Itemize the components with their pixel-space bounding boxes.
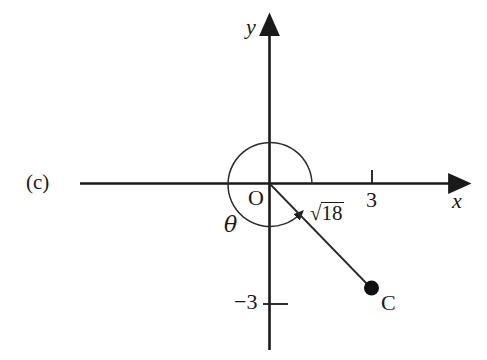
origin-label: O (248, 187, 264, 209)
angle-label-theta: θ (224, 214, 237, 236)
radicand: 18 (321, 202, 344, 224)
point-c-label: C (381, 292, 396, 314)
x-axis-label: x (452, 190, 462, 212)
figure-container: (c) y x O θ 3 −3 C √18 (0, 0, 487, 360)
y-tick-label-neg3: −3 (234, 291, 257, 313)
radius-length-label: √18 (310, 202, 344, 224)
x-tick-label-3: 3 (366, 189, 377, 211)
point-c-marker (364, 281, 379, 296)
segment-oc (270, 184, 369, 286)
y-axis-label: y (246, 16, 256, 38)
part-label: (c) (26, 172, 49, 193)
radical-expression: √18 (310, 202, 344, 224)
